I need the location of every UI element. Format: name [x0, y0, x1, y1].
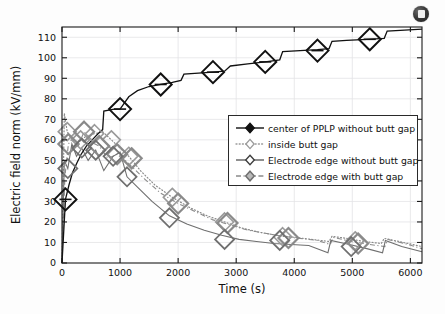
y-tick-label: 30: [44, 196, 56, 207]
chart-screenshot: 0102030405060708090100110010002000300040…: [0, 0, 445, 314]
y-tick-label: 100: [38, 52, 56, 63]
y-axis-title: Electric field norm (kV/mm): [9, 66, 23, 224]
y-tick-label: 10: [44, 237, 56, 248]
x-tick-label: 0: [59, 267, 65, 278]
x-tick-label: 6000: [398, 267, 422, 278]
y-tick-label: 90: [44, 73, 56, 84]
legend-symbol-2: [234, 153, 266, 167]
y-tick-label: 0: [50, 257, 56, 268]
x-tick-label: 4000: [282, 267, 306, 278]
y-tick-label: 110: [38, 32, 56, 43]
x-tick-label: 2000: [166, 267, 190, 278]
chart-legend: center of PPLP without butt gap inside b…: [228, 115, 418, 186]
legend-item-2[interactable]: Electrode edge without butt gap: [234, 152, 412, 168]
legend-symbol-0: [234, 121, 266, 135]
legend-symbol-3: [234, 169, 266, 183]
x-tick-label: 1000: [108, 267, 132, 278]
legend-item-1[interactable]: inside butt gap: [234, 136, 412, 152]
x-tick-label: 3000: [224, 267, 248, 278]
y-tick-label: 50: [44, 155, 56, 166]
y-tick-label: 80: [44, 93, 56, 104]
legend-label-3: Electrode edge with butt gap: [268, 171, 403, 182]
x-tick-label: 5000: [340, 267, 364, 278]
x-axis-title: Time (s): [218, 282, 266, 296]
legend-symbol-1: [234, 137, 266, 151]
legend-label-2: Electrode edge without butt gap: [268, 155, 418, 166]
y-tick-label: 20: [44, 216, 56, 227]
y-tick-label: 70: [44, 114, 56, 125]
legend-label-0: center of PPLP without butt gap: [268, 123, 415, 134]
legend-item-0[interactable]: center of PPLP without butt gap: [234, 120, 412, 136]
legend-item-3[interactable]: Electrode edge with butt gap: [234, 168, 412, 184]
y-tick-label: 60: [44, 134, 56, 145]
y-tick-label: 40: [44, 175, 56, 186]
legend-label-1: inside butt gap: [268, 139, 338, 150]
